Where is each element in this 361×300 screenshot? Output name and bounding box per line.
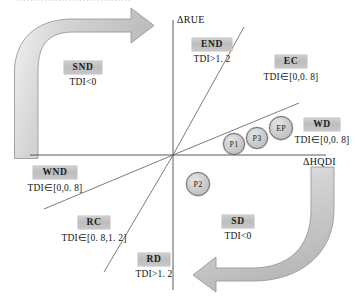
quadrant-condition-rc: TDI∈[0. 8,1. 2] bbox=[42, 232, 146, 243]
point-p3[interactable]: P3 bbox=[246, 127, 268, 149]
point-p2[interactable]: P2 bbox=[186, 172, 210, 196]
figure-canvas: ································· bbox=[0, 0, 361, 300]
point-p3-label: P3 bbox=[253, 134, 262, 143]
quadrant-label-rd: RD TDI>1. 2 bbox=[118, 248, 190, 279]
quadrant-badge-wd: WD bbox=[304, 118, 340, 131]
quadrant-condition-snd: TDI<0 bbox=[45, 77, 121, 87]
x-axis-label: ΔHQDI bbox=[303, 156, 336, 167]
point-p1[interactable]: P1 bbox=[223, 133, 245, 155]
point-ep[interactable]: EP bbox=[269, 116, 293, 140]
quadrant-condition-rd: TDI>1. 2 bbox=[118, 269, 190, 279]
quadrant-label-sd: SD TDI<0 bbox=[202, 210, 274, 241]
quadrant-badge-snd: SND bbox=[64, 61, 103, 74]
quadrant-label-rc: RC TDI∈[0. 8,1. 2] bbox=[42, 211, 146, 243]
quadrant-badge-rc: RC bbox=[78, 216, 111, 229]
quadrant-badge-wnd: WND bbox=[33, 166, 76, 179]
quadrant-condition-wnd: TDI∈[0,0. 8] bbox=[8, 182, 102, 193]
point-ep-label: EP bbox=[276, 124, 286, 133]
quadrant-label-snd: SND TDI<0 bbox=[45, 56, 121, 87]
quadrant-badge-ec: EC bbox=[275, 55, 307, 68]
quadrant-label-wd: WD TDI∈[0,0. 8] bbox=[283, 113, 361, 145]
point-p1-label: P1 bbox=[230, 140, 239, 149]
quadrant-condition-sd: TDI<0 bbox=[202, 231, 274, 241]
y-axis-label: ΔRUE bbox=[177, 14, 205, 25]
quadrant-badge-rd: RD bbox=[138, 253, 171, 266]
quadrant-condition-wd: TDI∈[0,0. 8] bbox=[283, 134, 361, 145]
point-p2-label: P2 bbox=[194, 180, 203, 189]
quadrant-badge-end: END bbox=[192, 38, 232, 51]
quadrant-condition-ec: TDI∈[0,0. 8] bbox=[238, 71, 344, 82]
quadrant-badge-sd: SD bbox=[222, 215, 253, 228]
quadrant-label-wnd: WND TDI∈[0,0. 8] bbox=[8, 161, 102, 193]
quadrant-label-ec: EC TDI∈[0,0. 8] bbox=[238, 50, 344, 82]
